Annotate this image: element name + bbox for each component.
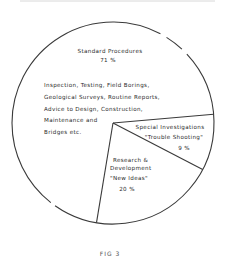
value-research: 20 % — [119, 186, 135, 192]
sublabel-special-investigations: "Trouble Shooting" — [145, 134, 203, 141]
label-standard-procedures: Standard Procedures — [78, 48, 143, 54]
pie-chart: Standard Procedures 71 % Inspection, Tes… — [0, 0, 233, 273]
description-line-2: Geological Surveys, Routine Reports, — [44, 94, 160, 101]
description-line-1: Inspection, Testing, Field Borings, — [44, 82, 150, 89]
label-research-line-2: Development — [110, 165, 152, 172]
value-special-investigations: 9 % — [178, 145, 190, 151]
value-standard-procedures: 71 % — [100, 57, 116, 63]
description-line-4: Maintenance and — [44, 117, 98, 123]
description-line-5: Bridges etc. — [44, 129, 82, 136]
sublabel-research: "New Ideas" — [110, 175, 148, 181]
description-line-3: Advice to Design, Construction, — [44, 106, 143, 113]
figure-caption: FIG 3 — [100, 250, 121, 257]
label-research-line-1: Research & — [113, 157, 149, 163]
label-special-investigations: Special Investigations — [136, 124, 205, 131]
